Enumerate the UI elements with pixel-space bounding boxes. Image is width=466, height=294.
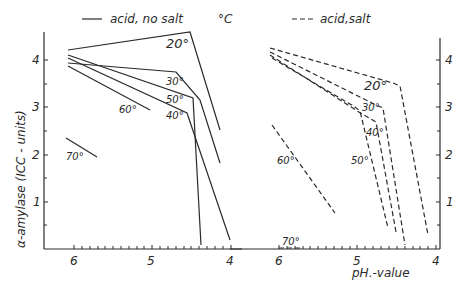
label-30-salt: 30° [362, 102, 380, 113]
right-x-tick-6: 6 [275, 254, 283, 268]
left-y-tick-3: 3 [32, 100, 40, 114]
x-axis-label: pH.-value [351, 266, 410, 280]
left-y-tick-1: 1 [33, 195, 41, 209]
left-series [66, 32, 230, 245]
right-x-tick-4: 4 [432, 254, 440, 268]
left-y-tick-4: 4 [32, 53, 40, 67]
series-20-salt [270, 48, 428, 235]
label-40-salt: 40° [366, 127, 384, 138]
legend: acid, no salt °C acid,salt [82, 12, 372, 26]
y-axis-label: α-amylase (ICC - units) [14, 110, 28, 248]
right-y-tick-3: 3 [445, 100, 453, 114]
label-20-no-salt: 20° [166, 36, 189, 51]
unit-label: °C [218, 12, 233, 26]
left-x-ticks [74, 245, 231, 249]
right-y-tick-2: 2 [445, 148, 453, 162]
label-60-no-salt: 60° [119, 104, 137, 115]
series-60-no-salt [68, 66, 150, 110]
label-50-salt: 50° [351, 155, 369, 166]
label-60-salt: 60° [277, 155, 295, 166]
legend-solid-label: acid, no salt [110, 12, 184, 26]
right-series [270, 48, 428, 248]
amylase-ph-chart: acid, no salt °C acid,salt 4 3 2 1 6 [0, 0, 466, 294]
right-panel: 4 3 2 1 6 5 4 pH.-value 20° 30° 40° 50° [230, 38, 454, 280]
series-60-salt [272, 125, 335, 213]
right-y-tick-1: 1 [446, 195, 454, 209]
left-x-tick-6: 6 [70, 254, 78, 268]
legend-dashed-label: acid,salt [320, 12, 372, 26]
label-70-salt: 70° [282, 236, 300, 247]
label-30-no-salt: 30° [166, 76, 184, 87]
label-20-salt: 20° [364, 78, 387, 93]
right-y-tick-4: 4 [445, 53, 453, 67]
left-panel: 4 3 2 1 6 5 4 α-amylase (ICC - units) [14, 32, 242, 268]
left-x-tick-4: 4 [226, 254, 234, 268]
left-y-tick-2: 2 [32, 148, 40, 162]
label-40-no-salt: 40° [166, 110, 184, 121]
left-x-tick-5: 5 [147, 254, 155, 268]
label-70-no-salt: 70° [66, 151, 84, 162]
label-50-no-salt: 50° [166, 94, 184, 105]
